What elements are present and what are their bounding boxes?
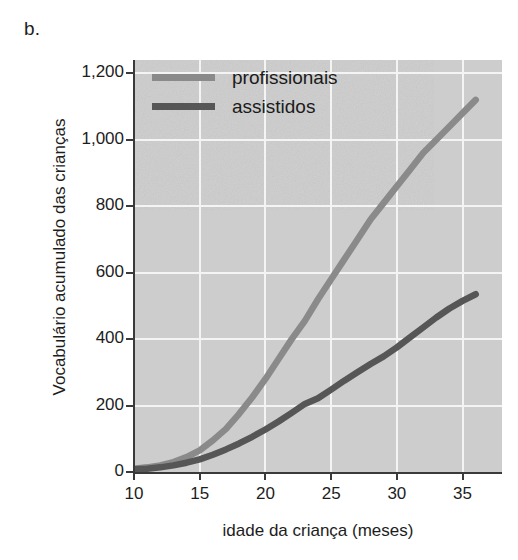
- x-axis-tick-label: 15: [180, 484, 220, 504]
- x-axis-tick-label: 25: [311, 484, 351, 504]
- legend-label: assistidos: [232, 97, 315, 116]
- y-axis-tick: [126, 139, 134, 141]
- y-axis-tick-label: 1,000: [81, 129, 124, 149]
- plot-area-wrapper: profissionaisassistidos: [134, 60, 502, 472]
- y-axis-tick-label: 200: [96, 395, 124, 415]
- x-axis-tick: [396, 472, 398, 480]
- y-axis-tick: [126, 205, 134, 207]
- y-axis-tick: [126, 405, 134, 407]
- y-axis-tick: [126, 72, 134, 74]
- x-axis-tick: [330, 472, 332, 480]
- y-axis-tick: [126, 272, 134, 274]
- y-axis-tick-label: 1,200: [81, 62, 124, 82]
- x-axis-tick: [462, 472, 464, 480]
- x-axis-tick-label: 20: [245, 484, 285, 504]
- y-axis-tick-label: 800: [96, 195, 124, 215]
- y-axis-tick-label: 600: [96, 262, 124, 282]
- x-axis-tick-label: 30: [377, 484, 417, 504]
- y-axis-tick-labels: 02004006008001,0001,200: [50, 60, 124, 472]
- legend: profissionaisassistidos: [152, 63, 452, 121]
- x-axis-tick-label: 35: [443, 484, 483, 504]
- y-axis-tick: [126, 338, 134, 340]
- x-axis-tick-label: 10: [114, 484, 154, 504]
- y-axis-tick-label: 400: [96, 328, 124, 348]
- x-axis-line: [133, 472, 502, 474]
- plot-area: [134, 60, 502, 472]
- legend-item: assistidos: [152, 92, 452, 121]
- x-axis-label: idade da criança (meses): [134, 521, 502, 541]
- legend-label: profissionais: [232, 68, 338, 87]
- y-axis-line: [133, 60, 135, 472]
- legend-swatch: [152, 74, 215, 81]
- y-axis-tick-label: 0: [115, 461, 124, 481]
- legend-item: profissionais: [152, 63, 452, 92]
- legend-swatch: [152, 103, 215, 110]
- data-series-layer: [134, 60, 502, 472]
- x-axis-tick-labels: 101520253035: [134, 484, 502, 508]
- x-axis-tick: [133, 472, 135, 480]
- x-axis-tick: [199, 472, 201, 480]
- series-line-profissionais: [134, 100, 476, 469]
- panel-label: b.: [24, 18, 40, 40]
- x-axis-tick: [264, 472, 266, 480]
